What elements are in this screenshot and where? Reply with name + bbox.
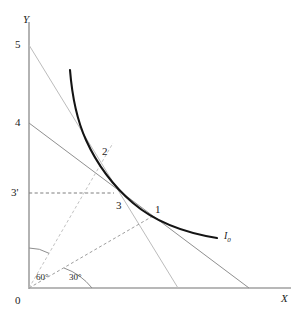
chart-figure: Y X 0 5 4 3' 2 3 1 60° 30° I0 [0, 0, 303, 320]
angle-label-60: 60° [36, 273, 49, 282]
arc-60-degrees [29, 248, 49, 253]
x-axis-label: X [281, 293, 288, 304]
y-tick-4: 4 [15, 117, 21, 128]
angle-label-30: 30° [69, 273, 82, 282]
y-tick-3-prime: 3' [11, 187, 18, 198]
y-tick-5: 5 [15, 39, 21, 50]
budget-line-shallow [29, 123, 249, 288]
point-label-2: 2 [102, 146, 108, 157]
indifference-curve-label: I0 [224, 231, 231, 244]
origin-label: 0 [15, 295, 21, 306]
point-label-3: 3 [116, 200, 122, 211]
curve-label-subscript: 0 [227, 236, 231, 244]
budget-line-steep [29, 45, 178, 288]
point-label-1: 1 [155, 204, 161, 215]
indifference-curve [70, 70, 217, 238]
y-axis-label: Y [23, 14, 29, 25]
